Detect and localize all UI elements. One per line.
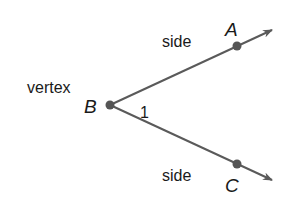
vertex-point-label: B bbox=[84, 96, 97, 117]
point-c-dot bbox=[233, 160, 242, 169]
side-top-label: side bbox=[162, 33, 191, 50]
vertex-term-label: vertex bbox=[27, 79, 71, 96]
side-bottom-label: side bbox=[162, 167, 191, 184]
point-b-dot bbox=[106, 101, 115, 110]
point-c-label: C bbox=[225, 175, 239, 196]
point-a-label: A bbox=[224, 19, 238, 40]
angle-number-label: 1 bbox=[140, 104, 149, 121]
point-a-dot bbox=[233, 42, 242, 51]
angle-diagram: vertex side side B 1 A C bbox=[0, 0, 288, 203]
